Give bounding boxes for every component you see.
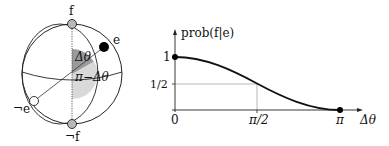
xtick-label-0: 0	[171, 113, 179, 127]
ytick-label-1: 1	[163, 50, 171, 64]
antipode-label: ¬e	[13, 102, 30, 116]
north-pole-node	[68, 20, 77, 29]
south-label: ¬f	[65, 130, 81, 144]
point-label-e: e	[113, 33, 120, 47]
state-point-e	[99, 42, 109, 52]
north-label: f	[69, 4, 75, 18]
endpoint-start	[172, 54, 178, 60]
south-pole-node	[68, 120, 77, 129]
y-axis-label: prob(f|e)	[181, 26, 234, 40]
probability-curve	[175, 57, 340, 110]
xtick-label-pi: π	[335, 113, 345, 127]
x-axis-arrow	[357, 108, 363, 112]
probability-plot: prob(f|e) Δθ 1 1/2 0 π/2 π	[150, 26, 377, 127]
ytick-label-half: 1/2	[150, 78, 168, 91]
antipode-point-not-e	[30, 97, 39, 106]
angle-label: Δθ	[74, 50, 92, 64]
sphere-diagram: f ¬f e ¬e Δθ π−Δθ	[13, 4, 122, 144]
y-axis-arrow	[173, 29, 177, 35]
complement-label: π−Δθ	[74, 70, 110, 84]
figure: f ¬f e ¬e Δθ π−Δθ prob(f|e) Δθ 1 1/2 0 π…	[0, 0, 389, 146]
xtick-label-half-pi: π/2	[248, 113, 269, 127]
x-axis-label: Δθ	[359, 113, 377, 127]
